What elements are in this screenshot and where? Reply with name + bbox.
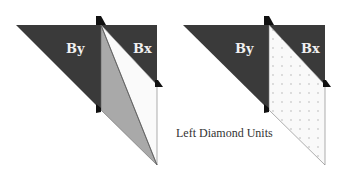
bx-label: Bx: [133, 41, 152, 56]
by-triangle: [183, 25, 269, 110]
arrow-right-icon: [155, 80, 163, 87]
caption: Left Diamond Units: [176, 126, 273, 141]
diamond-units-diagram: By Bx By Bx: [0, 0, 350, 173]
by-triangle: [16, 25, 101, 110]
by-label: By: [235, 41, 254, 56]
arrow-right-icon: [323, 80, 331, 87]
right-figure: By Bx: [183, 16, 331, 165]
bx-label: Bx: [301, 41, 320, 56]
left-figure: By Bx: [16, 16, 163, 165]
arrow-top-icon: [264, 16, 274, 25]
arrow-top-icon: [96, 16, 106, 25]
by-label: By: [66, 41, 85, 56]
